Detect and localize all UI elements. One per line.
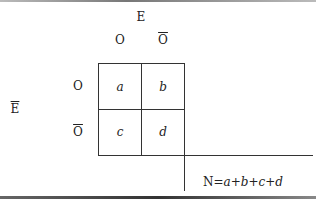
- cell-a: a: [116, 80, 123, 94]
- formula-plus-3: +: [265, 175, 275, 189]
- formula-lhs: N: [203, 175, 214, 189]
- total-formula: N=a+b+c+d: [203, 175, 283, 189]
- grid-right-extended-line: [184, 63, 185, 191]
- formula-plus-2: +: [248, 175, 258, 189]
- cell-c: c: [117, 125, 124, 139]
- grid-left-line: [98, 63, 99, 156]
- formula-plus-1: +: [231, 175, 241, 189]
- bottom-border: [0, 196, 316, 199]
- formula-term-d: d: [275, 175, 283, 189]
- formula-eq: =: [214, 175, 224, 189]
- formula-term-a: a: [224, 175, 231, 189]
- column-header-o-bar: O: [158, 33, 168, 47]
- row-header-o: O: [73, 79, 83, 93]
- column-header-o: O: [115, 33, 125, 47]
- grid-center-line: [141, 63, 142, 156]
- row-group-label: E: [11, 102, 20, 116]
- row-header-o-bar: O: [73, 125, 83, 139]
- cell-d: d: [159, 125, 167, 139]
- column-group-label: E: [137, 10, 146, 24]
- row-group-label-text: E: [11, 102, 20, 116]
- top-border: [0, 0, 316, 2]
- row-header-o-bar-text: O: [73, 125, 83, 139]
- column-header-o-bar-text: O: [158, 33, 168, 47]
- cell-b: b: [159, 80, 167, 94]
- grid-bottom-extended-line: [98, 155, 313, 156]
